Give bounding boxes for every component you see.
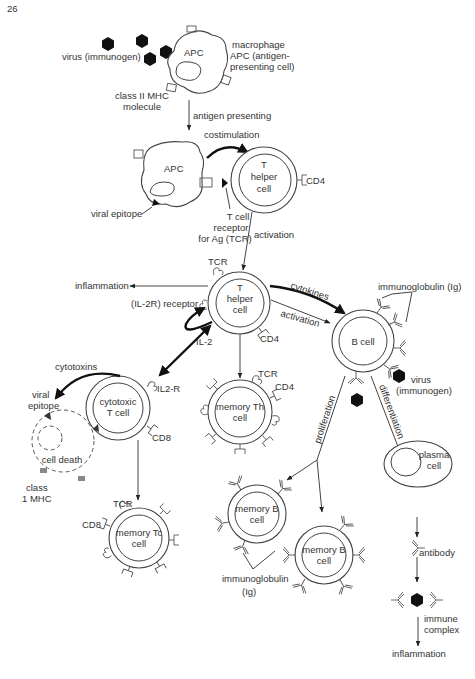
il2r-label: IL2-R	[157, 383, 180, 394]
b-cell-label: B cell	[351, 336, 374, 347]
activation-mid-label: activation	[279, 307, 321, 329]
immunoglobulin-top-leader	[382, 292, 412, 322]
macrophage-label-3: presenting cell)	[230, 61, 294, 72]
cytokines-label: cytokines	[289, 279, 330, 302]
memory-tc-label-2: cell	[132, 538, 146, 549]
apc-mid-label: APC	[164, 163, 184, 174]
plasma-cell	[384, 441, 452, 487]
memory-b2-label-2: cell	[317, 555, 331, 566]
mhc-square-4	[134, 150, 143, 158]
memory-b1-label-1: memory B	[235, 503, 278, 514]
antigen-presenting-label: antigen presenting	[193, 110, 271, 121]
immune-complex-label-1: immune	[424, 613, 458, 624]
dying-cell-nucleus	[38, 426, 62, 450]
class1-mhc-marker-1	[40, 468, 47, 473]
viral-epitope-left-label-1: viral	[32, 389, 49, 400]
th-center-label-3: cell	[233, 304, 247, 315]
apc-top-label: APC	[184, 47, 204, 58]
viral-epitope-mid-leader	[142, 207, 152, 214]
class1-mhc-label-2: 1 MHC	[22, 493, 52, 504]
memory-th-receptor-6	[201, 405, 208, 415]
cd4-top-label: CD4	[306, 175, 325, 186]
b-cell-antibody-3	[393, 340, 406, 356]
cd4-center-label: CD4	[260, 333, 279, 344]
immune-complex-label-2: complex	[424, 624, 460, 635]
apc-top-cell	[168, 31, 228, 93]
plasma-label-2: cell	[427, 460, 441, 471]
tcr-memtc-label: TCR	[113, 498, 133, 509]
macrophage-label-1: macrophage	[232, 39, 285, 50]
memory-b2-antibody-4	[352, 547, 365, 563]
tcr-label-2: receptor	[214, 222, 249, 233]
il2-label: IL-2	[196, 336, 212, 347]
il2r-receptor-label: (IL-2R) receptor	[131, 298, 198, 309]
tcr-leader	[226, 188, 230, 209]
proliferation-branch-1	[287, 460, 317, 480]
macrophage-label-2: APC (antigen-	[230, 50, 290, 61]
proliferation-label: proliferation	[311, 394, 337, 445]
immune-complex-glyph	[391, 592, 443, 608]
il2-arrow	[160, 326, 210, 375]
memory-b2-antibody-1	[283, 547, 296, 563]
proliferation-branch-2	[317, 460, 322, 512]
b-cell-antibody-5	[348, 371, 364, 384]
memory-th-label-1: memory Th	[216, 401, 264, 412]
tcr-memth-label: TCR	[258, 368, 278, 379]
memory-tc-label-1: memory Tc	[116, 527, 163, 538]
th-center-label-1: T	[237, 282, 243, 293]
virus-label-top: virus (immunogen)	[62, 51, 141, 62]
memory-b2-label-1: memory B	[302, 544, 345, 555]
class2-mhc-label-1: class II MHC	[115, 90, 169, 101]
virus-right-label-1: virus	[411, 374, 431, 385]
inflammation-bottom-label: inflammation	[392, 648, 446, 659]
class2-mhc-label-2: molecule	[123, 101, 161, 112]
memory-th-label-2: cell	[233, 412, 247, 423]
memory-b1-label-2: cell	[250, 514, 264, 525]
memory-tc-receptor-2	[169, 535, 179, 545]
tcr-center-label: TCR	[208, 256, 228, 267]
inflammation-left-label: inflammation	[75, 280, 129, 291]
page-number: 26	[7, 3, 18, 14]
cytotoxic-label-1: cytotoxic	[100, 396, 137, 407]
virus-bound	[351, 393, 363, 407]
cd4-memth-label: CD4	[275, 381, 294, 392]
immunoglobulin-top-label: immunoglobulin (Ig)	[378, 281, 461, 292]
memory-th-receptor-2	[272, 415, 280, 425]
costimulation-label: costimulation	[204, 129, 259, 140]
cd8-b-label: CD8	[82, 519, 101, 530]
immunoglobulin-bottom-label-1: immunoglobulin	[222, 573, 289, 584]
virus-right	[393, 369, 405, 383]
th-top-label-1: T	[261, 159, 267, 170]
memory-th-receptor-4	[235, 444, 245, 454]
viral-epitope-mid-label: viral epitope	[91, 208, 142, 219]
immunoglobulin-bottom-label-2: (Ig)	[242, 586, 256, 597]
viral-epitope-marker-1	[44, 412, 51, 420]
activation-top-label: activation	[254, 229, 294, 240]
viral-epitope-left-label-2: epitope	[28, 400, 59, 411]
th-top-label-2: helper	[251, 171, 277, 182]
th-center-label-2: helper	[227, 293, 253, 304]
tcr-label-1: T cell	[227, 211, 250, 222]
antigen-triangle	[222, 178, 228, 188]
class1-mhc-label-1: class	[26, 482, 48, 493]
cytotoxins-label: cytotoxins	[55, 361, 97, 372]
memory-tc-receptor-3	[102, 547, 112, 559]
cytotoxic-label-2: T cell	[107, 407, 130, 418]
cd8-a-label: CD8	[152, 432, 171, 443]
class1-mhc-marker-2	[78, 476, 85, 481]
apc-mid-cell	[141, 142, 203, 207]
immune-response-diagram: 26 virus (immunogen) APC macrophage APC …	[0, 0, 475, 679]
cell-death-label: cell death	[42, 454, 83, 465]
tcr-label-3: for Ag (TCR)	[198, 233, 251, 244]
tcr-glyph-center	[213, 268, 223, 275]
plasma-label-1: plasma	[419, 449, 450, 460]
th-top-label-3: cell	[257, 183, 271, 194]
antibody-label: antibody	[419, 547, 455, 558]
virus-right-label-2: (immunogen)	[396, 385, 452, 396]
